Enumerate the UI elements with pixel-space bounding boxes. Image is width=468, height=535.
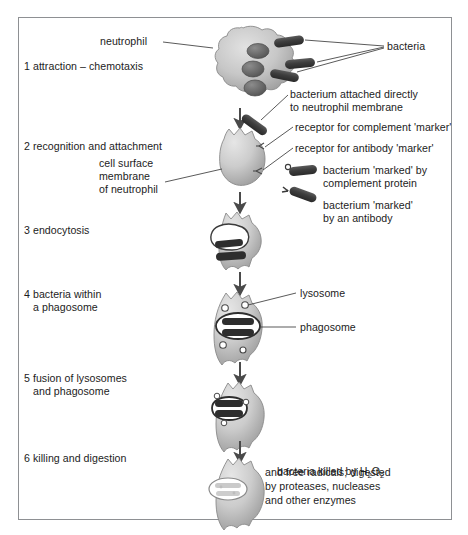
annotation-membrane-line1: cell surface bbox=[99, 157, 153, 170]
annotation-lysosome: lysosome bbox=[300, 287, 345, 300]
annotation-attached-line2: to neutrophil membrane bbox=[290, 101, 403, 114]
annotation-phagosome: phagosome bbox=[300, 321, 356, 334]
step-label-4-line2: a phagosome bbox=[33, 301, 98, 314]
annotation-membrane-line3: of neutrophil bbox=[99, 183, 158, 196]
step-label-5-line2: and phagosome bbox=[33, 385, 110, 398]
step-label-5-line1: 5 fusion of lysosomes bbox=[24, 372, 127, 385]
step-label-4-line1: 4 bacteria within bbox=[24, 288, 101, 301]
step-label-6: 6 killing and digestion bbox=[24, 452, 126, 465]
annotation-neutrophil: neutrophil bbox=[100, 35, 147, 48]
annotation-membrane-line2: membrane bbox=[99, 170, 150, 183]
annotation-marked-antibody-line2: by an antibody bbox=[323, 212, 393, 225]
annotation-marked-complement-line2: complement protein bbox=[323, 177, 417, 190]
annotation-marked-complement-line1: bacterium 'marked' by bbox=[323, 164, 427, 177]
annotation-killing-line2: and free radicals; digested bbox=[265, 466, 391, 479]
phagocytosis-diagram: 1 attraction – chemotaxis 2 recognition … bbox=[0, 0, 468, 535]
annotation-killing-line3: by proteases, nucleases bbox=[265, 480, 380, 493]
annotation-bacteria: bacteria bbox=[387, 40, 425, 53]
step-label-3: 3 endocytosis bbox=[24, 224, 89, 237]
annotation-receptor-antibody: receptor for antibody 'marker' bbox=[295, 142, 434, 155]
annotation-attached-line1: bacterium attached directly bbox=[290, 88, 418, 101]
annotation-killing-line4: and other enzymes bbox=[265, 494, 356, 507]
step-label-2: 2 recognition and attachment bbox=[24, 140, 162, 153]
annotation-receptor-complement: receptor for complement 'marker' bbox=[295, 121, 451, 134]
annotation-marked-antibody-line1: bacterium 'marked' bbox=[323, 199, 413, 212]
step-label-1: 1 attraction – chemotaxis bbox=[24, 60, 143, 73]
